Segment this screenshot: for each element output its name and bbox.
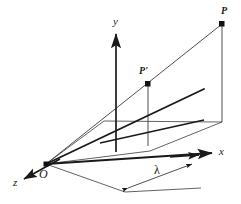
diagram-svg — [0, 0, 241, 204]
point-label-P-prime: P' — [139, 66, 148, 76]
axis-label-z: z — [13, 177, 17, 188]
x-axis-line — [46, 153, 212, 164]
lambda-measure-arrow — [128, 164, 192, 188]
base-plane-lower-edge — [46, 164, 201, 192]
axis-label-y: y — [113, 16, 118, 27]
bold-ray — [46, 89, 204, 164]
point-label-origin: O — [39, 168, 48, 180]
point-dot-P — [219, 21, 225, 27]
axis-label-x: x — [219, 146, 224, 157]
point-label-P: P — [221, 6, 227, 16]
measure-label-lambda: λ — [154, 164, 160, 176]
figure-canvas: y x z P P' O λ — [0, 0, 241, 204]
point-dot-O — [44, 162, 49, 167]
point-dot-P-prime — [145, 81, 151, 87]
